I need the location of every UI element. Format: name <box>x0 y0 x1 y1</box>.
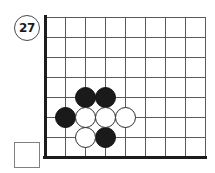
board-left-edge <box>44 15 47 159</box>
white-stone-c2r6[interactable] <box>75 127 96 148</box>
grid-line-vertical <box>205 17 206 157</box>
black-stone-c2r4[interactable] <box>75 87 96 108</box>
white-stone-c2r5[interactable] <box>75 107 96 128</box>
go-board[interactable] <box>45 17 205 157</box>
grid-line-vertical <box>185 17 186 157</box>
white-stone-c4r5[interactable] <box>115 107 136 128</box>
black-stone-c3r4[interactable] <box>95 87 116 108</box>
grid-line-vertical <box>125 17 126 157</box>
black-stone-c1r5[interactable] <box>55 107 76 128</box>
move-number-badge: 27 <box>14 15 40 41</box>
grid-line-vertical <box>165 17 166 157</box>
board-bottom-edge <box>43 156 207 159</box>
diagram-canvas: 27 <box>0 0 215 173</box>
grid-line-vertical <box>65 17 66 157</box>
empty-capture-box[interactable] <box>14 142 40 168</box>
grid-line-vertical <box>145 17 146 157</box>
move-number-label: 27 <box>19 22 35 34</box>
black-stone-c3r6[interactable] <box>95 127 116 148</box>
white-stone-c3r5[interactable] <box>95 107 116 128</box>
